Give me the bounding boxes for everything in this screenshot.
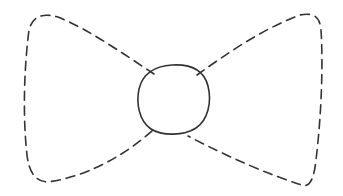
- bow-tie-diagram: [0, 0, 343, 196]
- right-wing-outline: [188, 14, 322, 185]
- knot-circle: [138, 65, 210, 134]
- left-wing-outline: [24, 15, 154, 182]
